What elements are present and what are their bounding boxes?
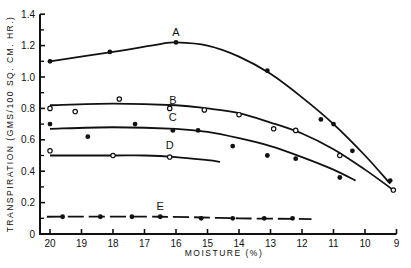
- x-axis-title: MOISTURE (%): [185, 248, 263, 258]
- series-e-marker: [98, 214, 103, 219]
- y-axis-title: TRANSPIRATION (GMS/100 SQ. CM. HR.): [5, 16, 15, 233]
- x-tick-label: 13: [265, 238, 277, 249]
- series-e-curve: [47, 217, 312, 219]
- series-a-marker: [265, 68, 270, 73]
- series-b-marker: [202, 108, 206, 112]
- y-tick-label: 0.8: [21, 103, 35, 114]
- series-c-marker: [230, 144, 235, 149]
- series-b-marker: [338, 153, 342, 157]
- series-c-marker: [170, 128, 175, 133]
- series-d-marker: [111, 153, 115, 157]
- series-e-label: E: [157, 200, 164, 212]
- series-a-label: A: [172, 26, 180, 38]
- series-e-marker: [290, 216, 295, 221]
- series-c-marker: [293, 156, 298, 161]
- series-e-marker: [158, 214, 163, 219]
- transpiration-chart: 00.20.40.60.81.01.21.4201918171615141312…: [0, 0, 411, 268]
- x-tick-label: 11: [328, 238, 339, 249]
- series-c-curve: [50, 127, 356, 180]
- y-tick-label: 1.4: [21, 9, 35, 20]
- series-e-marker: [60, 214, 65, 219]
- series-c-label: C: [169, 111, 177, 123]
- x-tick-label: 17: [139, 238, 151, 249]
- series-a-marker: [350, 148, 355, 153]
- series-d-curve: [50, 155, 220, 161]
- y-tick-label: 0: [29, 229, 35, 240]
- series-curves: [47, 42, 394, 219]
- series-a-marker: [331, 122, 336, 127]
- y-tick-label: 0.2: [21, 197, 35, 208]
- series-e-marker: [199, 216, 204, 221]
- series-e-marker: [262, 216, 267, 221]
- x-tick-label: 12: [296, 238, 308, 249]
- series-b-marker: [391, 188, 395, 192]
- y-tick-label: 1.0: [21, 72, 35, 83]
- series-b-marker: [237, 112, 241, 116]
- series-b-marker: [294, 128, 298, 132]
- series-e-marker: [230, 216, 235, 221]
- series-a-marker: [107, 49, 112, 54]
- series-labels: ABCDE: [157, 26, 181, 212]
- x-tick-label: 18: [107, 238, 119, 249]
- series-d-marker: [168, 155, 172, 159]
- series-c-marker: [133, 122, 138, 127]
- x-tick-label: 16: [170, 238, 182, 249]
- series-d-label: D: [166, 139, 174, 151]
- y-tick-label: 0.4: [21, 166, 35, 177]
- series-markers: [48, 40, 396, 221]
- series-c-marker: [337, 175, 342, 180]
- series-b-marker: [73, 109, 77, 113]
- series-d-marker: [48, 149, 52, 153]
- series-b-marker: [117, 97, 121, 101]
- axes: 00.20.40.60.81.01.21.4201918171615141312…: [21, 9, 400, 249]
- series-a-curve: [50, 42, 390, 183]
- y-tick-label: 0.6: [21, 134, 35, 145]
- x-tick-label: 10: [359, 238, 371, 249]
- x-tick-label: 19: [76, 238, 88, 249]
- series-b-marker: [271, 127, 275, 131]
- y-tick-label: 1.2: [21, 40, 35, 51]
- series-c-marker: [85, 134, 90, 139]
- series-c-marker: [196, 128, 201, 133]
- series-c-marker: [265, 153, 270, 158]
- series-a-marker: [48, 59, 53, 64]
- series-e-marker: [130, 214, 135, 219]
- series-c-marker: [48, 122, 53, 127]
- series-a-marker: [174, 40, 179, 45]
- series-a-marker: [388, 178, 393, 183]
- series-b-label: B: [169, 94, 176, 106]
- x-tick-label: 9: [394, 238, 400, 249]
- series-b-marker: [48, 106, 52, 110]
- x-tick-label: 20: [44, 238, 56, 249]
- series-b-marker: [168, 106, 172, 110]
- series-a-marker: [319, 117, 324, 122]
